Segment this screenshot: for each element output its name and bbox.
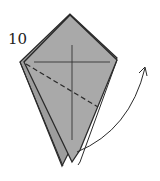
front-layer — [24, 15, 117, 162]
origami-diagram — [0, 0, 160, 181]
